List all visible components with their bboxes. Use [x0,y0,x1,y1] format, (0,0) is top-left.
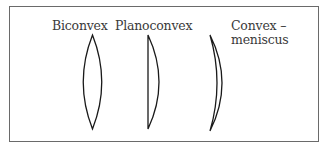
biconvex-lens-icon [83,35,102,129]
convex-meniscus-lens-icon [210,35,222,131]
lens-diagram [0,0,323,148]
planoconvex-lens-icon [148,35,159,129]
